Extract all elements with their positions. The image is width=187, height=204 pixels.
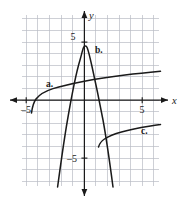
y-axis-arrow-up: [82, 11, 88, 18]
y-axis-arrow-down: [82, 189, 88, 196]
curve-b-path: [58, 46, 113, 187]
x-axis-arrow-left: [10, 97, 17, 103]
x-axis-label: x: [171, 95, 177, 106]
curve-label-a: a.: [46, 79, 53, 89]
curve-c-path: [99, 125, 161, 148]
curve-label-c: c.: [141, 126, 148, 136]
x-tick-label-positive-5: 5: [140, 104, 145, 115]
coordinate-plane-svg: y x 5 –5 –5 5 a. b. c.: [0, 0, 187, 204]
y-tick-label-negative-5: –5: [66, 153, 77, 164]
x-axis-arrow-right: [161, 97, 168, 103]
x-tick-label-negative-5: –5: [20, 104, 31, 115]
y-tick-label-positive-5: 5: [71, 31, 76, 42]
graph-figure: y x 5 –5 –5 5 a. b. c.: [0, 0, 187, 204]
curve-label-b: b.: [95, 45, 103, 55]
y-axis-label: y: [88, 10, 94, 21]
